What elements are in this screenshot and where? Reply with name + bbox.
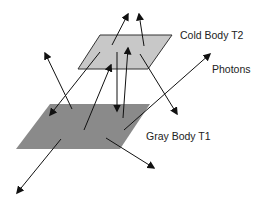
cold-body-plate — [78, 35, 172, 69]
gray-body-label: Gray Body T1 — [146, 130, 211, 142]
cold-body-label: Cold Body T2 — [180, 29, 243, 41]
gray-body-plate — [16, 104, 150, 149]
photons-label: Photons — [212, 63, 251, 75]
radiation-exchange-diagram: Cold Body T2 Photons Gray Body T1 — [0, 0, 265, 204]
photon-arrow — [106, 138, 154, 168]
photon-arrow — [45, 53, 72, 109]
